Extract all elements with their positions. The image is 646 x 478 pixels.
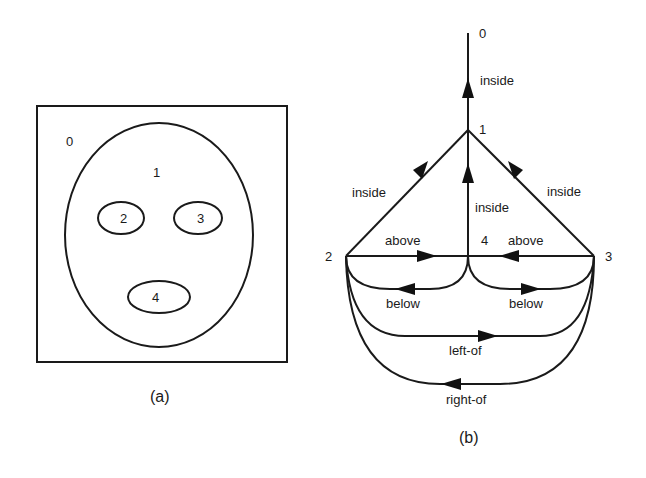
edge-label-inside: inside <box>352 185 386 200</box>
region-label-1: 1 <box>153 165 160 180</box>
edge-4-2-below <box>346 256 468 289</box>
region-label-3: 3 <box>197 211 204 226</box>
arrow-left-icon <box>499 250 519 262</box>
arrow-left-icon <box>441 378 461 390</box>
edge-label-inside: inside <box>475 200 509 215</box>
caption-a: (a) <box>150 388 170 405</box>
node-label-3: 3 <box>605 249 612 264</box>
node-label-4: 4 <box>481 233 488 248</box>
edge-label-inside: inside <box>480 73 514 88</box>
arrow-right-icon <box>521 283 541 295</box>
edge-label-above: above <box>385 233 420 248</box>
edge-label-below: below <box>509 296 544 311</box>
arrow-left-icon <box>395 283 415 295</box>
node-label-2: 2 <box>325 249 332 264</box>
region-label-4: 4 <box>152 290 159 305</box>
region-0-frame <box>37 106 287 362</box>
edge-label-left-of: left-of <box>449 343 482 358</box>
region-label-0: 0 <box>66 134 73 149</box>
edge-label-right-of: right-of <box>446 392 487 407</box>
arrow-up-icon <box>462 78 474 98</box>
edge-label-inside: inside <box>547 184 581 199</box>
arrow-up-left-icon <box>508 161 523 179</box>
arrow-up-icon <box>462 163 474 183</box>
region-label-2: 2 <box>120 211 127 226</box>
edge-3-2-right-of <box>346 256 594 384</box>
edge-4-3-below <box>468 256 594 289</box>
diagram-canvas: 0 1 2 3 4 (a) 0 1 2 3 4 insi <box>0 0 646 478</box>
arrow-up-right-icon <box>413 161 428 179</box>
panel-a: 0 1 2 3 4 (a) <box>37 106 287 405</box>
edge-label-above: above <box>508 233 543 248</box>
node-label-1: 1 <box>479 122 486 137</box>
arrow-right-icon <box>478 330 498 342</box>
arrow-right-icon <box>417 250 437 262</box>
panel-b: 0 1 2 3 4 inside inside inside inside ab… <box>325 26 612 446</box>
node-label-0: 0 <box>479 26 486 41</box>
caption-b: (b) <box>459 429 479 446</box>
edge-label-below: below <box>386 296 421 311</box>
